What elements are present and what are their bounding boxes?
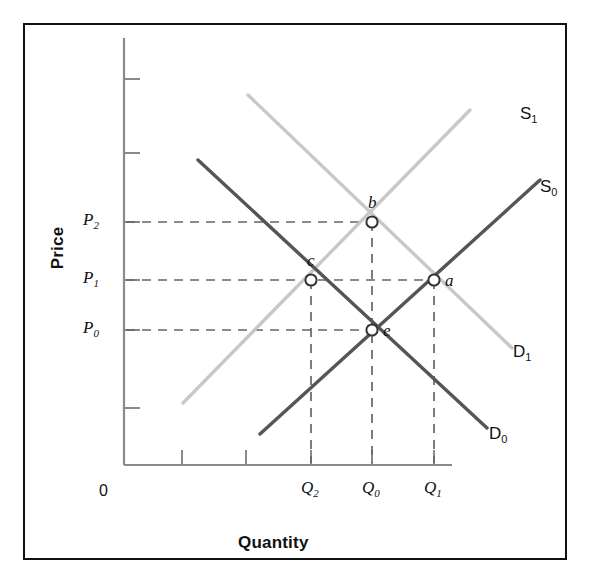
quantity-label-q0: Q0: [362, 478, 380, 499]
price-label-p2-sub: 2: [93, 219, 99, 231]
y-tick-marks: [124, 79, 140, 408]
curve-label-d1: D1: [513, 342, 531, 363]
quantity-label-q0-base: Q: [362, 478, 374, 497]
curve-label-s0-sub: 0: [551, 186, 557, 198]
point-marker-b: [366, 216, 377, 227]
origin-label: 0: [99, 482, 108, 500]
quantity-label-q2: Q2: [301, 478, 319, 499]
curve-label-d1-base: D: [513, 342, 525, 361]
price-label-p1-sub: 1: [93, 277, 99, 289]
point-label-b: b: [368, 193, 377, 213]
quantity-label-q1-sub: 1: [436, 487, 442, 499]
x-axis-title: Quantity: [238, 533, 309, 553]
price-label-p1: P1: [83, 268, 99, 289]
curve-label-s0: S0: [540, 177, 557, 198]
curve-label-d0-base: D: [489, 424, 501, 443]
x-tick-marks: [182, 450, 434, 465]
point-label-a: a: [445, 271, 454, 291]
curve-supply-s1: [183, 110, 470, 403]
curve-demand-d0: [198, 160, 487, 428]
price-label-p2: P2: [83, 210, 99, 231]
price-label-p1-base: P: [83, 268, 93, 287]
quantity-label-q1: Q1: [424, 478, 442, 499]
y-axis-title: Price: [48, 188, 68, 308]
curve-label-s1-base: S: [520, 104, 531, 123]
supply-demand-plot: [0, 0, 592, 585]
curve-label-s0-base: S: [540, 177, 551, 196]
price-label-p0-base: P: [83, 318, 93, 337]
axis-group: [124, 38, 452, 465]
point-marker-a: [428, 274, 439, 285]
curve-label-d0-sub: 0: [501, 433, 507, 445]
curve-label-s1-sub: 1: [531, 113, 537, 125]
figure-page: Price Quantity 0 P2 P1 P0 Q2 Q0 Q1 S1 S0…: [0, 0, 592, 585]
quantity-label-q1-base: Q: [424, 478, 436, 497]
point-label-e: e: [383, 321, 391, 341]
curve-label-s1: S1: [520, 104, 537, 125]
curve-supply-s0: [260, 180, 540, 434]
quantity-label-q2-base: Q: [301, 478, 313, 497]
point-marker-e: [366, 324, 377, 335]
quantity-guide-lines: [311, 222, 434, 463]
quantity-label-q2-sub: 2: [313, 487, 319, 499]
curve-label-d0: D0: [489, 424, 507, 445]
quantity-label-q0-sub: 0: [374, 487, 380, 499]
point-marker-c: [305, 274, 316, 285]
curve-label-d1-sub: 1: [525, 351, 531, 363]
price-label-p2-base: P: [83, 210, 93, 229]
price-label-p0-sub: 0: [93, 327, 99, 339]
point-label-c: c: [307, 251, 315, 271]
price-label-p0: P0: [83, 318, 99, 339]
